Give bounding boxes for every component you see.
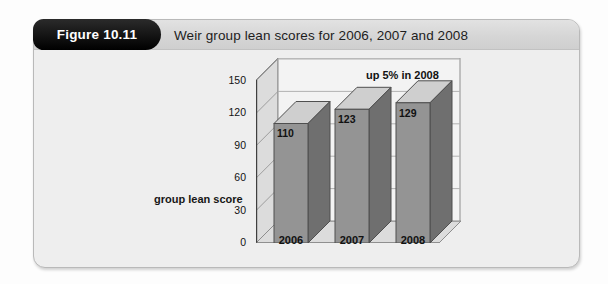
bar-value-2006: 110 xyxy=(277,127,294,139)
figure-number-badge: Figure 10.11 xyxy=(33,19,161,50)
y-tick-label-60: 60 xyxy=(220,171,246,183)
x-tick-label-2006: 2006 xyxy=(267,234,315,246)
bar-value-2008: 129 xyxy=(399,107,417,119)
figure-header-bar: Figure 10.11 Weir group lean scores for … xyxy=(34,20,579,50)
bar-2008 xyxy=(256,58,461,243)
y-tick-label-30: 30 xyxy=(220,204,246,216)
figure-title: Weir group lean scores for 2006, 2007 an… xyxy=(174,20,468,50)
chart-annotation: up 5% in 2008 xyxy=(366,69,439,81)
y-tick-label-0: 0 xyxy=(220,236,246,248)
chart-area: group lean score xyxy=(34,50,579,268)
x-tick-label-2008: 2008 xyxy=(389,234,437,246)
y-tick-label-150: 150 xyxy=(220,74,246,86)
y-tick-label-120: 120 xyxy=(220,106,246,118)
bar-value-2007: 123 xyxy=(338,113,356,125)
x-tick-label-2007: 2007 xyxy=(328,234,376,246)
y-tick-label-90: 90 xyxy=(220,139,246,151)
figure-card: Figure 10.11 Weir group lean scores for … xyxy=(33,19,580,268)
plot-area: 0 30 60 90 120 150 up 5% in 2008 110 xyxy=(256,58,461,243)
